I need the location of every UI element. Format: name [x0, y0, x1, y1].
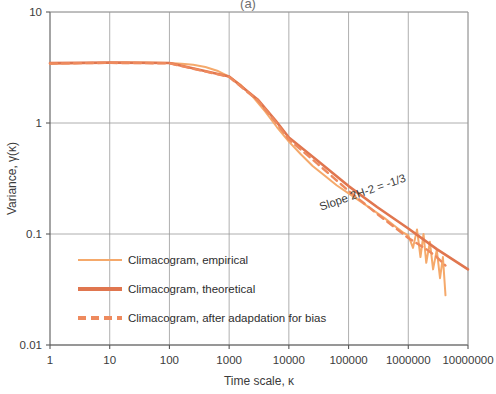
- y-axis-title: Variance, γ(κ): [5, 142, 19, 215]
- legend-label: Climacogram, after adapdation for bias: [128, 312, 326, 324]
- x-tick-label: 10: [103, 354, 116, 366]
- x-tick-label: 10000: [273, 354, 305, 366]
- x-tick-label: 1000000: [386, 354, 431, 366]
- x-tick-label: 100: [160, 354, 179, 366]
- figure-container: (a) Slope 2H-2 = -1/3 110100100010000100…: [0, 0, 496, 394]
- x-tick-label: 10000000: [442, 354, 493, 366]
- y-tick-labels: 0.010.1110: [20, 6, 42, 351]
- y-tick-label: 1: [36, 117, 42, 129]
- y-tick-label: 0.01: [20, 339, 42, 351]
- y-tick-label: 10: [29, 6, 42, 18]
- legend-label: Climacogram, theoretical: [128, 283, 255, 295]
- legend-label: Climacogram, empirical: [128, 254, 248, 266]
- x-tick-label: 1: [47, 354, 53, 366]
- x-tick-label: 1000: [216, 354, 242, 366]
- climacogram-chart: Slope 2H-2 = -1/3 1101001000100001000001…: [0, 0, 496, 394]
- chart-annotations: Slope 2H-2 = -1/3: [318, 172, 407, 213]
- y-tick-label: 0.1: [26, 228, 42, 240]
- slope-annotation-label: Slope 2H-2 = -1/3: [318, 172, 407, 213]
- series-line: [50, 63, 468, 270]
- x-axis-title: Time scale, κ: [224, 374, 295, 388]
- x-tick-labels: 110100100010000100000100000010000000: [47, 354, 494, 366]
- x-tick-label: 100000: [329, 354, 367, 366]
